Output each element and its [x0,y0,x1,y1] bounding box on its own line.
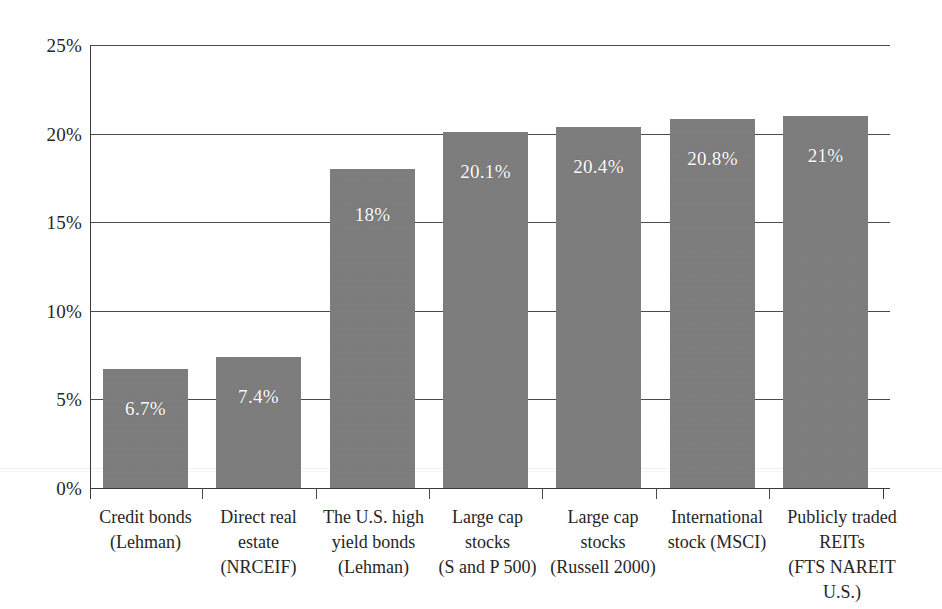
bar-credit-bonds[interactable]: 6.7% [103,369,188,488]
x-label-line: Direct real [203,505,314,530]
x-label-line: (Lehman) [316,555,431,580]
bar-value-label: 20.4% [556,157,641,176]
y-tick-0: 0% [12,479,82,498]
x-tick-3 [429,488,430,499]
x-axis-baseline [90,488,890,489]
bar-us-high-yield-bonds[interactable]: 18% [330,169,415,488]
bar-value-label: 21% [783,146,868,165]
bar-series: 6.7% 7.4% 18% 20.1% 20.4% 20.8% 21% [90,45,890,488]
x-label-line: (Russell 2000) [544,555,662,580]
x-label-line: (Lehman) [90,530,201,555]
bar-international-stock-msci[interactable]: 20.8% [670,119,755,488]
plot-area: 6.7% 7.4% 18% 20.1% 20.4% 20.8% 21% [90,45,890,488]
x-label-line: stocks [544,530,662,555]
bar-value-label: 20.1% [443,162,528,181]
x-label-line: REITs [772,530,912,555]
x-label-large-cap-russell2000: Large cap stocks (Russell 2000) [544,505,662,580]
x-label-credit-bonds: Credit bonds (Lehman) [90,505,201,555]
x-label-line: International [658,505,776,530]
x-label-line: estate [203,530,314,555]
bar-value-label: 6.7% [103,399,188,418]
x-label-us-high-yield-bonds: The U.S. high yield bonds (Lehman) [316,505,431,580]
bar-value-label: 7.4% [216,387,301,406]
x-axis-left-endcap [90,488,91,499]
y-tick-25: 25% [12,36,82,55]
x-label-line: yield bonds [316,530,431,555]
bar-direct-real-estate[interactable]: 7.4% [216,357,301,488]
x-label-line: Publicly traded [772,505,912,530]
x-label-large-cap-sp500: Large cap stocks (S and P 500) [430,505,545,580]
x-axis-category-labels: Credit bonds (Lehman) Direct real estate… [90,505,890,600]
bar-large-cap-sp500[interactable]: 20.1% [443,132,528,488]
x-label-line: (NRCEIF) [203,555,314,580]
x-label-international-stock-msci: International stock (MSCI) [658,505,776,555]
x-label-line: (FTS NAREIT U.S.) [772,555,912,605]
y-tick-15: 15% [12,213,82,232]
bar-value-label: 18% [330,205,415,224]
x-tick-5 [656,488,657,499]
x-tick-2 [316,488,317,499]
x-label-publicly-traded-reits: Publicly traded REITs (FTS NAREIT U.S.) [772,505,912,605]
x-tick-1 [202,488,203,499]
bar-chart-figure: 25% 20% 15% 10% 5% 0% 6.7% 7.4% 18% 20.1… [0,0,942,609]
bar-publicly-traded-reits[interactable]: 21% [783,116,868,488]
y-tick-10: 10% [12,302,82,321]
x-label-direct-real-estate: Direct real estate (NRCEIF) [203,505,314,580]
bar-large-cap-russell2000[interactable]: 20.4% [556,127,641,489]
x-label-line: Large cap [430,505,545,530]
y-tick-20: 20% [12,125,82,144]
x-tick-4 [542,488,543,499]
bar-value-label: 20.8% [670,149,755,168]
x-label-line: The U.S. high [316,505,431,530]
y-axis-tick-labels: 25% 20% 15% 10% 5% 0% [8,45,82,488]
x-label-line: Credit bonds [90,505,201,530]
x-label-line: (S and P 500) [430,555,545,580]
y-tick-5: 5% [12,390,82,409]
x-tick-6 [769,488,770,499]
x-label-line: Large cap [544,505,662,530]
x-axis-right-endcap [883,488,884,499]
x-label-line: stock (MSCI) [658,530,776,555]
x-label-line: stocks [430,530,545,555]
